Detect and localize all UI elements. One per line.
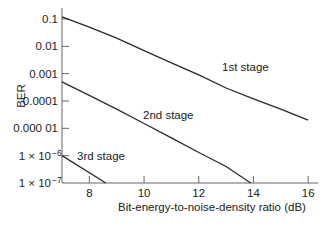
- y-tick-exponent: −7: [52, 175, 62, 185]
- x-tick-label: 14: [247, 187, 260, 199]
- y-tick-label: 1 × 10: [19, 177, 51, 189]
- x-tick-label: 16: [302, 187, 315, 199]
- series-line-2: [62, 82, 251, 183]
- x-tick-label: 12: [192, 187, 205, 199]
- series-labels: 1st stage 2nd stage 3rd stage: [77, 61, 269, 162]
- y-tick-label: 0.001: [29, 68, 58, 80]
- x-tick-label: 8: [86, 187, 92, 199]
- y-tick-label: 0.01: [36, 40, 58, 52]
- ber-chart: 0.10.010.0010.00010.000 011 × 10−61 × 10…: [0, 0, 324, 228]
- x-tick-label: 10: [138, 187, 151, 199]
- series-label-3rd-stage: 3rd stage: [77, 150, 125, 162]
- y-tick-label: 1 × 10: [19, 150, 51, 162]
- y-tick-exponent: −6: [52, 148, 62, 158]
- y-tick-label: 0.1: [42, 13, 58, 25]
- series-label-2nd-stage: 2nd stage: [143, 109, 194, 121]
- series-line-1: [62, 17, 308, 120]
- y-tick-label: 0.0001: [23, 95, 58, 107]
- x-ticks: 810121416: [86, 176, 314, 199]
- y-tick-label: 0.000 01: [13, 122, 58, 134]
- x-axis-title: Bit-energy-to-noise-density ratio (dB): [118, 201, 306, 213]
- series-label-1st-stage: 1st stage: [222, 61, 269, 73]
- y-axis-title: BER: [15, 84, 27, 108]
